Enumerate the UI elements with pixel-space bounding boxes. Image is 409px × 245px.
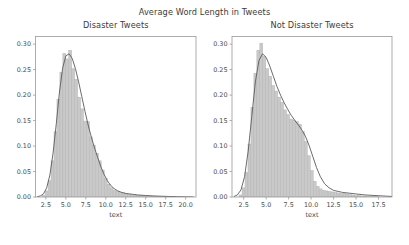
histogram-bar [245, 173, 248, 197]
histogram-bar [45, 191, 48, 197]
y-tick-label: 0.15 [17, 117, 31, 125]
x-tick-label: 5.0 [61, 201, 71, 209]
histogram-bar [84, 121, 87, 197]
histogram-bar [116, 191, 119, 197]
x-tick-label: 5.0 [261, 201, 271, 209]
y-tick-label: 0.10 [213, 142, 227, 150]
figure-canvas: Average Word Length in Tweets Disaster T… [0, 0, 409, 245]
x-tick-label: 12.5 [119, 201, 133, 209]
histogram-bar [272, 85, 275, 197]
y-tick-label: 0.05 [17, 168, 31, 176]
histogram-bar [69, 50, 72, 197]
y-tick-label: 0.00 [213, 193, 227, 201]
subplot-left: 2.55.07.510.012.515.017.520.00.000.050.1… [17, 37, 196, 220]
histogram-bar [266, 69, 269, 197]
y-tick-label: 0.05 [213, 168, 227, 176]
histogram-bar [63, 53, 66, 197]
histogram-bar [278, 97, 281, 197]
histogram-bar [92, 145, 95, 197]
histogram-bar [343, 193, 346, 197]
histogram-bar [275, 91, 278, 197]
histogram-bar [119, 192, 122, 197]
histogram-bar [260, 43, 263, 197]
x-tick-label: 17.5 [371, 201, 385, 209]
histogram-plots: 2.55.07.510.012.515.017.520.00.000.050.1… [0, 0, 409, 245]
x-tick-label: 10.0 [304, 201, 318, 209]
y-tick-label: 0.20 [17, 91, 31, 99]
y-tick-label: 0.00 [17, 193, 31, 201]
histogram-bar [75, 79, 78, 197]
x-axis-label: text [305, 211, 318, 219]
histogram-bar [331, 192, 334, 197]
histogram-bar [287, 114, 290, 197]
histogram-bar [60, 72, 63, 197]
histogram-bar [107, 184, 110, 197]
histogram-bar [340, 193, 343, 197]
histogram-bar [104, 179, 107, 197]
histogram-bar [322, 190, 325, 197]
histogram-bar [281, 102, 284, 197]
histogram-bar [242, 188, 245, 197]
histogram-bar [313, 181, 316, 197]
histogram-bar [292, 120, 295, 197]
y-tick-label: 0.30 [213, 40, 227, 48]
y-tick-label: 0.25 [17, 66, 31, 74]
histogram-bar [95, 153, 98, 197]
x-tick-label: 15.0 [349, 201, 363, 209]
histogram-bar [316, 186, 319, 197]
histogram-bar [328, 191, 331, 197]
subplot-right: 2.55.07.510.012.515.017.50.000.050.100.1… [213, 37, 392, 220]
x-tick-label: 17.5 [159, 201, 173, 209]
histogram-bar [334, 192, 337, 197]
x-tick-label: 7.5 [81, 201, 91, 209]
histogram-bar [78, 97, 81, 197]
histogram-bar [66, 59, 69, 197]
histogram-bar [337, 193, 340, 197]
x-tick-label: 10.0 [99, 201, 113, 209]
histogram-bar [301, 132, 304, 197]
y-tick-label: 0.20 [213, 91, 227, 99]
histogram-bar [110, 188, 113, 197]
x-tick-label: 2.5 [41, 201, 51, 209]
y-tick-label: 0.15 [213, 117, 227, 125]
x-tick-label: 7.5 [284, 201, 294, 209]
histogram-bar [284, 110, 287, 197]
histogram-bar [304, 141, 307, 197]
x-tick-label: 12.5 [326, 201, 340, 209]
y-tick-label: 0.30 [17, 40, 31, 48]
histogram-bar [113, 190, 116, 197]
x-axis-label: text [109, 211, 122, 219]
histogram-bar [72, 69, 75, 197]
histogram-bar [125, 194, 128, 197]
x-tick-label: 2.5 [239, 201, 249, 209]
histogram-bar [263, 56, 266, 197]
histogram-bar [48, 181, 51, 197]
histogram-bar [269, 76, 272, 197]
histogram-bar [295, 122, 298, 197]
histogram-bar [325, 191, 328, 197]
histogram-bar [346, 194, 349, 197]
histogram-bar [81, 109, 84, 197]
histogram-bar [89, 137, 92, 197]
histogram-bar [86, 122, 89, 197]
histogram-bar [307, 156, 310, 197]
histogram-bar [298, 124, 301, 197]
y-tick-label: 0.10 [17, 142, 31, 150]
histogram-bar [319, 189, 322, 197]
histogram-bar [289, 119, 292, 197]
x-tick-label: 15.0 [139, 201, 153, 209]
x-tick-label: 20.0 [179, 201, 193, 209]
y-tick-label: 0.25 [213, 66, 227, 74]
histogram-bar [310, 171, 313, 198]
